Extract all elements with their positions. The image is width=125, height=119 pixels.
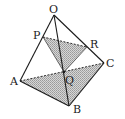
label-a: A (9, 75, 19, 88)
label-o: O (49, 3, 58, 16)
label-r: R (90, 38, 99, 51)
label-c: C (106, 57, 114, 70)
edge-oa (20, 15, 54, 81)
shaded-triangle-abc (20, 63, 104, 106)
label-b: B (73, 103, 81, 116)
tetrahedron-diagram: O P R C A Q B (0, 0, 125, 119)
label-q: Q (65, 74, 74, 87)
point-q-dot (63, 71, 65, 73)
label-p: P (33, 29, 41, 42)
